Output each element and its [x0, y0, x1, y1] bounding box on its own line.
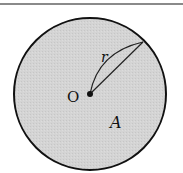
center-point [87, 91, 93, 97]
circle-diagram: O r A [0, 0, 183, 173]
area-label: A [108, 113, 122, 132]
center-label: O [67, 88, 79, 106]
